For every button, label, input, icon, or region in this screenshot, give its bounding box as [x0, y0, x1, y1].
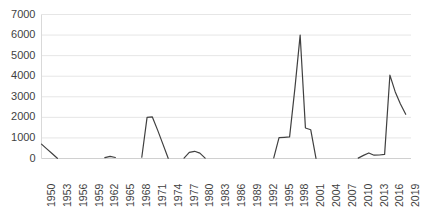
axis-line-group — [42, 15, 412, 159]
gridlines-group — [42, 15, 412, 138]
data-line-segment — [105, 156, 116, 157]
y-tick-label: 6000 — [11, 29, 35, 40]
y-tick-label: 1000 — [11, 132, 35, 143]
y-tick-label: 5000 — [11, 50, 35, 61]
data-line-segment — [358, 75, 406, 158]
y-tick-label: 3000 — [11, 91, 35, 102]
data-line-segment — [42, 144, 58, 158]
y-tick-label: 7000 — [11, 9, 35, 20]
y-tick-label: 4000 — [11, 70, 35, 81]
y-tick-label: 2000 — [11, 111, 35, 122]
y-tick-label: 0 — [29, 153, 35, 164]
data-line-segment — [184, 151, 205, 158]
